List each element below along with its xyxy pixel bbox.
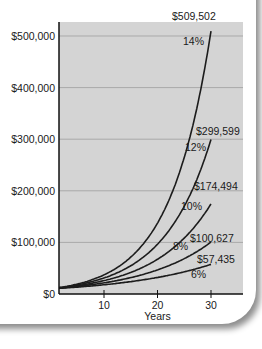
y-tick-label: $300,000 (11, 133, 55, 145)
y-axis-labels: $0$100,000$200,000$300,000$400,000$500,0… (11, 30, 55, 300)
rate-label: 12% (185, 141, 206, 153)
y-tick-label: $0 (43, 288, 55, 300)
end-value-label: $57,435 (197, 253, 235, 265)
y-tick-label: $500,000 (11, 30, 55, 42)
rate-label: 6% (191, 268, 206, 280)
rate-label: 14% (183, 35, 204, 47)
growth-chart: $0$100,000$200,000$300,000$400,000$500,0… (0, 0, 262, 349)
x-axis-title: Years (144, 310, 170, 322)
y-tick-label: $200,000 (11, 185, 55, 197)
end-value-label: $174,494 (194, 180, 238, 192)
end-value-label: $100,627 (190, 232, 234, 244)
x-tick-label: 10 (98, 299, 110, 311)
y-tick-label: $400,000 (11, 82, 55, 94)
x-tick-label: 30 (205, 299, 217, 311)
end-value-label: $509,502 (172, 10, 216, 22)
y-tick-label: $100,000 (11, 236, 55, 248)
rate-label: 8% (173, 240, 188, 252)
rate-label: 10% (181, 200, 202, 212)
end-value-label: $299,599 (196, 125, 240, 137)
